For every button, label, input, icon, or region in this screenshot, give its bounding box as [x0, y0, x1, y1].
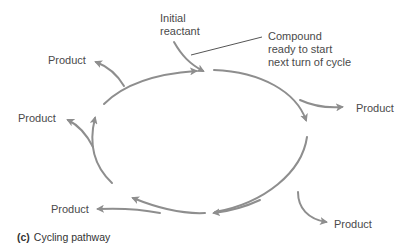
figure-caption: (c)Cycling pathway [17, 231, 110, 243]
product-label-top-left: Product [48, 54, 86, 67]
product-arrow-bottom-left [98, 209, 160, 213]
product-label-right: Product [356, 102, 394, 115]
product-arrow-bottom-right [298, 192, 326, 222]
product-arrow-right [300, 100, 342, 107]
product-label-left: Product [18, 112, 56, 125]
product-arrow-top-left [96, 62, 124, 86]
caption-text: Cycling pathway [34, 231, 110, 243]
cycle-arc-top-right [214, 70, 306, 120]
cycle-arc-right [215, 137, 307, 212]
compound-label: Compound ready to start next turn of cyc… [268, 30, 351, 69]
product-label-bottom-left: Product [51, 203, 89, 216]
product-label-bottom-right: Product [334, 218, 372, 231]
caption-tag: (c) [17, 231, 30, 243]
cycle-arc-bottom-left [92, 118, 112, 183]
product-arrow-left [68, 120, 93, 147]
initial-reactant-arrow [174, 42, 203, 71]
initial-reactant-label: Initial reactant [160, 12, 200, 38]
compound-leader-line [191, 37, 262, 55]
